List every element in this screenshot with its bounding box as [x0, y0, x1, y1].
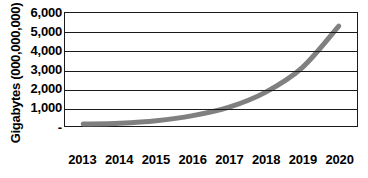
gridline	[65, 109, 357, 110]
y-axis-tick-label: 6,000	[16, 6, 62, 19]
gridline	[65, 71, 357, 72]
y-axis-tick-label: 1,000	[16, 101, 62, 114]
y-axis-tick-label: 5,000	[16, 25, 62, 38]
x-axis-tick-label: 2020	[318, 152, 362, 167]
x-axis-tick-labels: 20132014201520162017201820192020	[64, 152, 358, 172]
y-axis-tick-label: 4,000	[16, 44, 62, 57]
plot-area	[64, 12, 358, 127]
gridline	[65, 32, 357, 33]
y-axis-tick-labels: 6,0005,0004,0003,0002,0001,000-	[12, 0, 62, 178]
gridline	[65, 90, 357, 91]
y-axis-tick-label: 3,000	[16, 63, 62, 76]
y-axis-tick-label: 2,000	[16, 82, 62, 95]
line-chart: Gigabytes (000,000,000) 6,0005,0004,0003…	[0, 0, 368, 178]
y-axis-tick-label: -	[16, 121, 62, 134]
gridline	[65, 51, 357, 52]
